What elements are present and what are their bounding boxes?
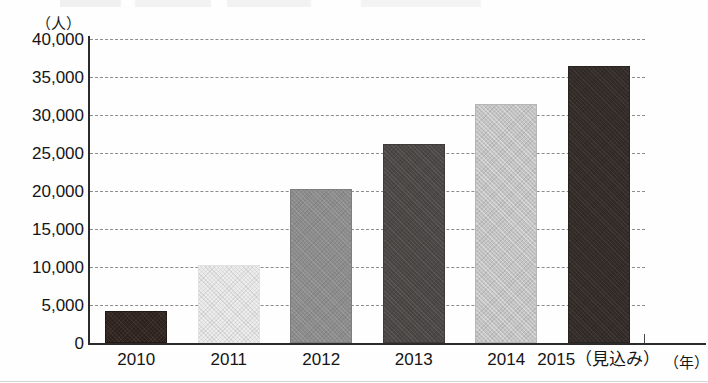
y-tick-label-15000: 15,000 bbox=[0, 221, 84, 238]
bar-2014 bbox=[475, 104, 537, 343]
gridline-5000 bbox=[90, 305, 645, 306]
gridline-15000 bbox=[90, 229, 645, 230]
y-tick-label-25000: 25,000 bbox=[0, 145, 84, 162]
x-axis-tick-labels: 201020112012201320142015（見込み） bbox=[90, 351, 708, 379]
y-tick-label-35000: 35,000 bbox=[0, 69, 84, 86]
plot-area bbox=[90, 39, 645, 343]
gridline-30000 bbox=[90, 115, 645, 116]
bar-2012 bbox=[290, 189, 352, 343]
y-tick-label-30000: 30,000 bbox=[0, 107, 84, 124]
bar-2013 bbox=[383, 144, 445, 343]
y-tick-label-0: 0 bbox=[0, 335, 84, 352]
bar-2011 bbox=[198, 265, 260, 343]
gridline-35000 bbox=[90, 77, 645, 78]
y-tick-label-10000: 10,000 bbox=[0, 259, 84, 276]
x-axis-line bbox=[88, 343, 706, 345]
x-tick-label-2015見込み: 2015（見込み） bbox=[529, 351, 669, 370]
y-tick-label-5000: 5,000 bbox=[0, 297, 84, 314]
y-tick-label-40000: 40,000 bbox=[0, 31, 84, 48]
page-bottom-rule bbox=[0, 381, 708, 382]
cropped-caption-remnant bbox=[60, 0, 580, 7]
y-axis-tick-labels: 40,00035,00030,00025,00020,00015,00010,0… bbox=[0, 0, 84, 383]
gridline-25000 bbox=[90, 153, 645, 154]
bar-chart-figure: （人） 40,00035,00030,00025,00020,00015,000… bbox=[0, 0, 708, 383]
y-tick-label-20000: 20,000 bbox=[0, 183, 84, 200]
gridline-40000 bbox=[90, 39, 645, 40]
bar-2015見込み bbox=[568, 66, 630, 343]
gridline-20000 bbox=[90, 191, 645, 192]
gridline-10000 bbox=[90, 267, 645, 268]
bar-2010 bbox=[105, 311, 167, 343]
x-axis-unit-label: （年） bbox=[664, 351, 708, 372]
